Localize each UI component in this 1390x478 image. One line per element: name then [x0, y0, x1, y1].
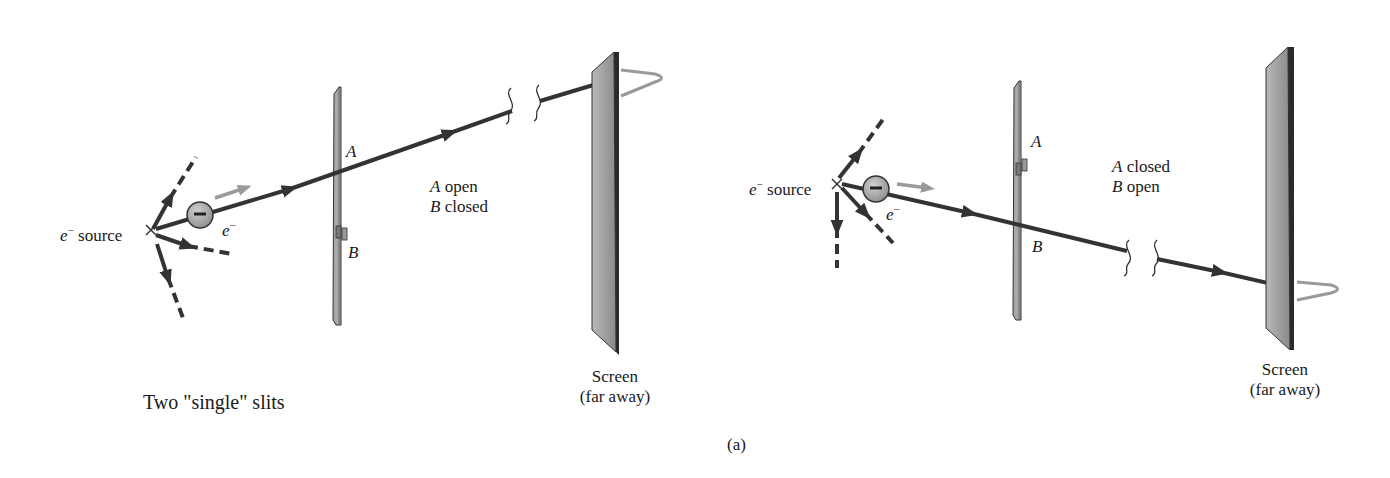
left-panel	[146, 52, 662, 355]
state-letter: A	[430, 177, 440, 196]
slit-a-label: A	[346, 142, 356, 162]
break-marks-icon	[506, 85, 540, 124]
state-letter: A	[1112, 157, 1122, 176]
source-marker-icon	[832, 179, 842, 189]
state-text: closed	[1127, 157, 1170, 176]
state-letter: B	[430, 197, 440, 216]
source-symbol-sup: −	[757, 178, 763, 190]
state-letter: B	[1112, 177, 1122, 196]
slit-state-line-1: A open	[430, 177, 488, 197]
source-label: e− source	[60, 220, 122, 246]
source-label: e− source	[749, 174, 811, 200]
source-text: source	[767, 180, 811, 199]
source-text: source	[78, 226, 122, 245]
motion-arrow-icon	[897, 184, 928, 188]
figure-label: (a)	[727, 435, 746, 455]
slit-b-label: B	[1032, 237, 1042, 257]
slit-a-label: A	[1031, 132, 1041, 152]
slit-plate	[1013, 81, 1027, 320]
slit-b-label: B	[348, 243, 358, 263]
electron-symbol-sup: −	[230, 219, 236, 231]
electron-beam	[842, 184, 1276, 285]
motion-arrow-icon	[215, 188, 245, 198]
source-marker-icon	[146, 225, 156, 235]
electron-beam	[156, 83, 600, 229]
state-text: open	[1127, 177, 1160, 196]
electron-icon	[187, 202, 213, 228]
source-symbol: e	[60, 226, 68, 245]
screen-label-line-2: (far away)	[1230, 380, 1340, 400]
source-symbol-sup: −	[68, 224, 74, 236]
screen-label-line-1: Screen	[560, 367, 670, 387]
intensity-curve	[621, 70, 662, 96]
screen-label-line-2: (far away)	[560, 387, 670, 407]
electron-label: e−	[222, 215, 236, 241]
state-text: open	[445, 177, 478, 196]
figure-title: Two "single" slits	[143, 392, 285, 412]
right-panel	[832, 47, 1338, 350]
slit-state-line-1: A closed	[1112, 157, 1170, 177]
detection-screen	[1266, 47, 1338, 350]
slit-state-label: A closed B open	[1112, 157, 1170, 197]
screen-label-line-1: Screen	[1230, 360, 1340, 380]
scattered-paths	[153, 157, 232, 318]
detection-screen	[592, 52, 662, 355]
intensity-curve	[1297, 282, 1338, 300]
screen-label: Screen (far away)	[1230, 360, 1340, 400]
slit-plate	[333, 87, 347, 325]
screen-label: Screen (far away)	[560, 367, 670, 407]
electron-symbol: e	[886, 205, 894, 224]
slit-state-label: A open B closed	[430, 177, 488, 217]
state-text: closed	[445, 197, 488, 216]
break-marks-icon	[1124, 240, 1158, 276]
electron-symbol: e	[222, 221, 230, 240]
electron-label: e−	[886, 199, 900, 225]
slit-state-line-2: B closed	[430, 197, 488, 217]
source-symbol: e	[749, 180, 757, 199]
slit-state-line-2: B open	[1112, 177, 1170, 197]
electron-symbol-sup: −	[894, 203, 900, 215]
